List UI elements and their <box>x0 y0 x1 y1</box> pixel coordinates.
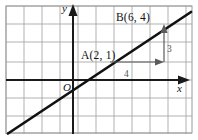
coordinate-plane-figure: B(6, 4) A(2, 1) O x y 3 4 <box>0 0 198 140</box>
rise-value-label: 3 <box>167 45 172 55</box>
point-a-label: A(2, 1) <box>81 50 116 62</box>
axis-lines <box>6 10 182 134</box>
origin-label: O <box>63 82 71 93</box>
point-b-label: B(6, 4) <box>116 12 150 24</box>
y-axis-label: y <box>62 3 67 14</box>
run-arrowhead <box>155 58 164 65</box>
x-axis-label: x <box>177 83 182 94</box>
run-value-label: 4 <box>124 70 129 80</box>
graph-canvas <box>0 0 198 140</box>
